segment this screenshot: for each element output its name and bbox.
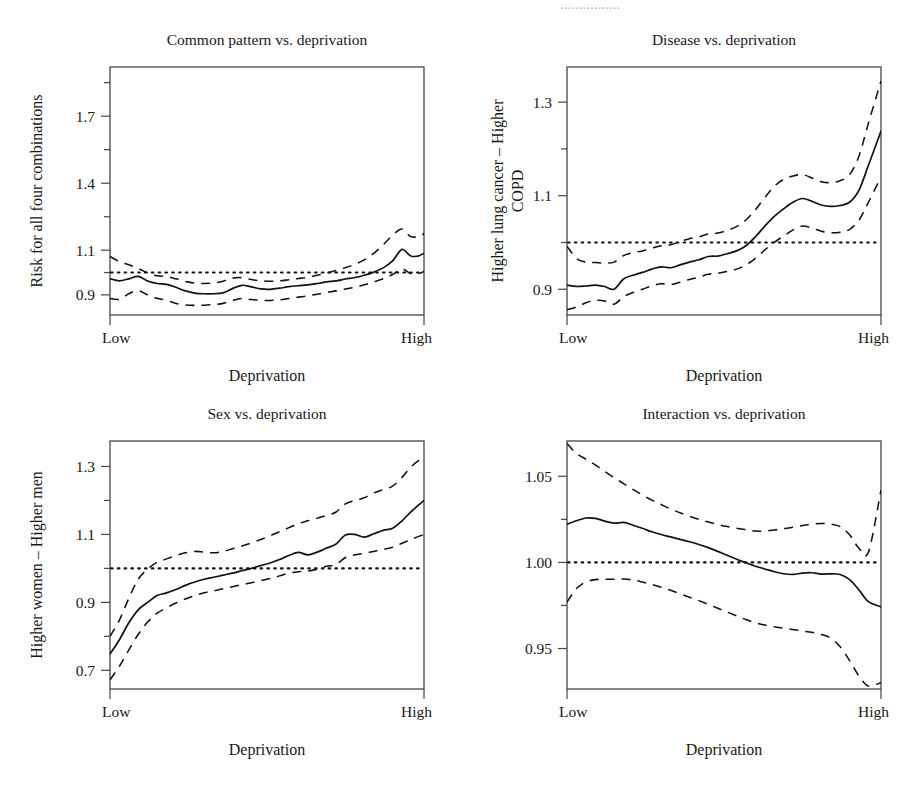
x-axis-label: Deprivation xyxy=(686,367,762,385)
panel-interaction: Interaction vs. deprivation0.951.001.05L… xyxy=(457,394,914,787)
plot-frame xyxy=(110,67,424,315)
panel-disease: Disease vs. deprivation0.91.11.3LowHighD… xyxy=(457,20,914,414)
y-tick-label: 0.9 xyxy=(533,281,553,298)
confidence-band-curve xyxy=(110,456,424,636)
panel-title: Disease vs. deprivation xyxy=(652,31,796,48)
confidence-band-curve xyxy=(110,92,487,284)
estimate-curve xyxy=(567,131,881,289)
x-tick-label-high: High xyxy=(858,329,889,346)
panel-title: Common pattern vs. deprivation xyxy=(167,31,368,48)
confidence-band-curve xyxy=(567,444,881,557)
y-tick-label: 0.9 xyxy=(76,594,96,611)
y-axis-label-line: Higher lung cancer – Higher xyxy=(489,99,507,283)
y-tick-label: 1.05 xyxy=(525,468,552,485)
cropped-header-text: ................ xyxy=(560,0,900,9)
chart-common-pattern: Common pattern vs. deprivation0.91.11.41… xyxy=(0,20,457,414)
y-tick-label: 0.95 xyxy=(525,640,552,657)
y-tick-label: 1.1 xyxy=(76,242,95,259)
x-tick-label-low: Low xyxy=(102,703,131,720)
y-tick-label: 1.4 xyxy=(76,175,96,192)
confidence-band-curve xyxy=(110,534,424,679)
confidence-band-curve xyxy=(567,579,881,686)
x-tick-label-high: High xyxy=(401,329,432,346)
x-axis-label: Deprivation xyxy=(229,741,305,759)
panel-common-pattern: Common pattern vs. deprivation0.91.11.41… xyxy=(0,20,457,414)
y-axis-label: Higher women – Higher men xyxy=(28,471,46,659)
y-tick-label: 1.3 xyxy=(76,458,96,475)
plot-frame xyxy=(110,441,424,689)
y-tick-label: 1.7 xyxy=(76,108,96,125)
confidence-band-curve xyxy=(567,81,881,263)
y-tick-label: 1.3 xyxy=(533,94,553,111)
x-axis-label: Deprivation xyxy=(229,367,305,385)
chart-interaction: Interaction vs. deprivation0.951.001.05L… xyxy=(457,394,914,787)
plot-frame xyxy=(567,67,881,315)
panel-title: Sex vs. deprivation xyxy=(207,405,326,422)
y-tick-label: 1.1 xyxy=(76,526,95,543)
x-tick-label-high: High xyxy=(401,703,432,720)
x-tick-label-low: Low xyxy=(559,703,588,720)
panel-sex: Sex vs. deprivation0.70.91.11.3LowHighDe… xyxy=(0,394,457,787)
chart-disease: Disease vs. deprivation0.91.11.3LowHighD… xyxy=(457,20,914,414)
x-tick-label-high: High xyxy=(858,703,889,720)
y-axis-label-line: COPD xyxy=(509,170,526,213)
x-tick-label-low: Low xyxy=(102,329,131,346)
estimate-curve xyxy=(110,128,487,293)
y-tick-label: 1.1 xyxy=(533,187,552,204)
figure-panel-grid: ................ Common pattern vs. depr… xyxy=(0,0,914,787)
y-axis-label: Risk for all four combinations xyxy=(28,95,45,288)
y-tick-label: 0.9 xyxy=(76,286,96,303)
panel-title: Interaction vs. deprivation xyxy=(642,405,805,422)
chart-sex: Sex vs. deprivation0.70.91.11.3LowHighDe… xyxy=(0,394,457,787)
x-tick-label-low: Low xyxy=(559,329,588,346)
y-tick-label: 0.7 xyxy=(76,662,96,679)
estimate-curve xyxy=(110,500,424,654)
x-axis-label: Deprivation xyxy=(686,741,762,759)
y-axis-label: Higher lung cancer – HigherCOPD xyxy=(489,99,526,283)
y-tick-label: 1.00 xyxy=(525,554,552,571)
plot-frame xyxy=(567,441,881,689)
